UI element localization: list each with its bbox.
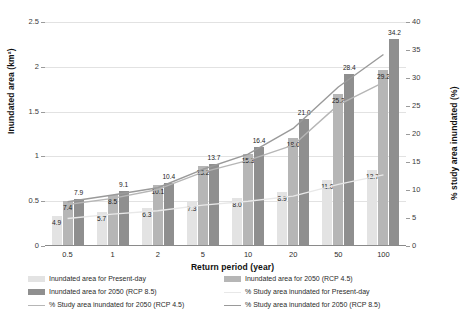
bar-group: 12.729.234.2	[361, 22, 406, 246]
bar-value-label: 8.9	[278, 196, 287, 203]
bar: 8.5	[108, 195, 118, 246]
bar-value-label: 15.3	[242, 158, 255, 165]
bar-value-label: 13.2	[197, 170, 210, 177]
legend-line-swatch	[224, 302, 241, 308]
plot-area: 00.511.522.5 0510152025303540 4.97.47.95…	[45, 22, 406, 246]
legend-label: Inundated area for 2050 (RCP 8.5)	[49, 288, 157, 295]
bar-value-label: 10.1	[151, 189, 164, 196]
x-axis-tick-label: 20	[289, 250, 297, 259]
bar-value-label: 7.3	[187, 206, 196, 213]
y-axis-right-tick-label: 0	[412, 242, 416, 250]
y-axis-right-tick	[406, 22, 410, 23]
y-axis-left-tick-label: 2	[35, 63, 39, 71]
bar: 4.9	[52, 216, 62, 246]
bar: 13.2	[198, 166, 208, 246]
bar-value-label: 9.1	[119, 182, 128, 189]
legend-item: % Study area inundated for 2050 (RCP 4.5…	[28, 298, 224, 311]
bar: 8.0	[232, 198, 242, 246]
x-axis-line	[45, 245, 406, 246]
y-axis-right-tick-label: 25	[412, 102, 420, 110]
chart-figure: Inundated area (km²) % study area inunda…	[0, 0, 465, 327]
bar-value-label: 4.9	[52, 220, 61, 227]
bar: 15.3	[243, 154, 253, 246]
legend-item: Inundated area for 2050 (RCP 4.5)	[224, 272, 448, 285]
bar-value-label: 28.4	[343, 65, 356, 72]
legend-label: % Study area inundated for 2050 (RCP 8.5…	[245, 301, 380, 308]
bar-value-label: 10.4	[162, 174, 175, 181]
legend-item: % Study area inundated for Present-day	[224, 285, 448, 298]
bar-value-label: 34.2	[388, 30, 401, 37]
y-axis-left-tick-label: 1.5	[29, 108, 39, 116]
bar-value-label: 7.9	[74, 190, 83, 197]
legend-line-swatch	[28, 302, 45, 308]
y-axis-right-tick-label: 40	[412, 18, 420, 26]
bar-value-label: 12.7	[366, 174, 379, 181]
x-axis-tick-label: 5	[201, 250, 205, 259]
bar-group: 11.025.228.4	[316, 22, 361, 246]
legend-line-swatch	[224, 289, 241, 295]
bar: 7.4	[63, 201, 73, 246]
bar: 6.3	[142, 208, 152, 246]
bar: 9.1	[119, 191, 129, 246]
y-axis-right-tick-label: 5	[412, 214, 416, 222]
bar: 16.4	[254, 147, 264, 246]
bar-value-label: 11.0	[321, 184, 333, 191]
bar: 18.0	[288, 138, 298, 246]
bar-value-label: 6.3	[142, 212, 151, 219]
bar-group: 8.015.316.4	[226, 22, 271, 246]
bar: 29.2	[378, 70, 388, 247]
bar-value-label: 8.5	[108, 199, 117, 206]
bar: 12.7	[367, 170, 377, 246]
bar-value-label: 7.4	[63, 205, 72, 212]
bar-value-label: 5.7	[97, 216, 106, 223]
x-axis-tick-label: 100	[377, 250, 390, 259]
bar-group: 5.78.59.1	[90, 22, 135, 246]
x-axis-tick-label: 0.5	[62, 250, 72, 259]
bar-value-label: 25.2	[332, 98, 345, 105]
y-axis-right-tick-label: 30	[412, 74, 420, 82]
bar-group: 7.313.213.7	[180, 22, 225, 246]
legend-label: Inundated area for 2050 (RCP 4.5)	[245, 275, 353, 282]
legend-color-swatch	[28, 289, 45, 295]
bar: 7.3	[187, 202, 197, 246]
bar: 21.0	[299, 119, 309, 246]
bar: 10.4	[164, 183, 174, 246]
x-axis-tick-label: 50	[334, 250, 342, 259]
bar-value-label: 16.4	[253, 138, 266, 145]
x-axis-tick-label: 10	[244, 250, 252, 259]
y-axis-right-tick-label: 35	[412, 46, 420, 54]
legend-item: % Study area inundated for 2050 (RCP 8.5…	[224, 298, 448, 311]
bar: 34.2	[389, 39, 399, 246]
y-axis-right-tick	[406, 78, 410, 79]
x-axis-tick-label: 2	[156, 250, 160, 259]
bar: 11.0	[322, 180, 332, 246]
y-axis-right-tick-label: 15	[412, 158, 420, 166]
bar: 28.4	[344, 74, 354, 246]
x-axis-tick-label: 1	[111, 250, 115, 259]
y-axis-right-tick	[406, 162, 410, 163]
bar: 25.2	[333, 94, 343, 246]
y-axis-right-tick	[406, 246, 410, 247]
bar-group: 8.918.021.0	[271, 22, 316, 246]
bar-value-label: 29.2	[377, 74, 390, 81]
x-axis-title: Return period (year)	[0, 262, 465, 272]
y-axis-left-tick	[41, 246, 45, 247]
y-axis-right-tick	[406, 50, 410, 51]
bar-value-label: 13.7	[208, 155, 221, 162]
bar-value-label: 8.0	[232, 202, 241, 209]
y-axis-left-tick-label: 0.5	[29, 197, 39, 205]
y-axis-right-tick	[406, 190, 410, 191]
y-axis-title-left: Inundated area (km²)	[6, 48, 16, 134]
chart-legend: Inundated area for Present-dayInundated …	[28, 272, 448, 311]
bar: 8.9	[277, 192, 287, 246]
y-axis-right-tick	[406, 134, 410, 135]
y-axis-left-tick-label: 0	[35, 242, 39, 250]
bar: 5.7	[97, 212, 107, 246]
legend-item: Inundated area for Present-day	[28, 272, 224, 285]
y-axis-right-tick	[406, 106, 410, 107]
bar-value-label: 18.0	[287, 142, 300, 149]
legend-label: % Study area inundated for 2050 (RCP 4.5…	[49, 301, 184, 308]
y-axis-right-tick	[406, 218, 410, 219]
bar-group: 6.310.110.4	[135, 22, 180, 246]
y-axis-left-tick-label: 2.5	[29, 18, 39, 26]
